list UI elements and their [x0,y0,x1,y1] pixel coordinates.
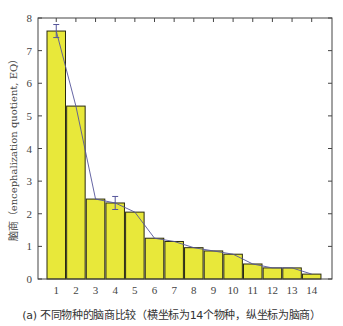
x-tick-label: 6 [152,284,158,296]
x-tick-label: 13 [287,284,299,296]
x-tick-label: 14 [306,284,318,296]
y-tick-label: 2 [27,208,33,220]
x-tick-label: 1 [54,284,60,296]
bar [86,199,105,279]
x-tick-label: 2 [73,284,79,296]
y-tick-label: 7 [27,45,33,57]
bar [106,203,125,279]
x-tick-label: 10 [228,284,240,296]
y-tick-label: 3 [27,175,33,187]
bar [47,31,66,279]
bar [302,274,321,279]
y-tick-label: 5 [27,110,33,122]
y-tick-label: 8 [27,12,33,24]
x-tick-label: 11 [247,284,258,296]
bar [67,106,86,279]
bar [145,238,164,279]
bar [185,248,204,279]
y-tick-label: 4 [27,143,33,155]
x-tick-label: 4 [112,284,118,296]
y-tick-label: 6 [27,77,33,89]
bar [165,241,184,279]
y-tick-label: 1 [27,240,33,252]
y-axis-label: 脑商（encephalization quotient, EQ） [5,48,20,248]
bar [204,251,223,279]
bar [244,264,263,279]
figure-caption: (a) 不同物种的脑商比较（横坐标为14个物种，纵坐标为脑商） [0,306,343,322]
y-tick-label: 0 [27,273,33,285]
x-tick-label: 3 [93,284,99,296]
x-tick-label: 5 [132,284,138,296]
x-tick-label: 12 [267,284,278,296]
bar [263,268,282,279]
x-tick-label: 8 [191,284,197,296]
bar [126,212,145,279]
x-tick-label: 9 [211,284,217,296]
x-tick-label: 7 [171,284,177,296]
bar-chart: 0123456781234567891011121314 [0,0,343,326]
